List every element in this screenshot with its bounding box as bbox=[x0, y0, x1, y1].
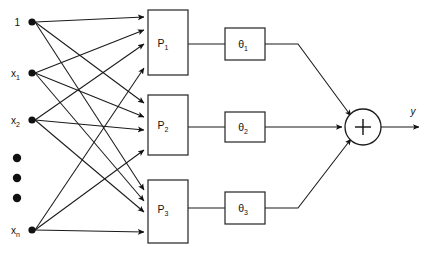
input-node-bias[interactable]: 1 bbox=[14, 17, 35, 28]
perceptron-p2[interactable]: P2 bbox=[148, 95, 188, 155]
wires-theta-to-sum bbox=[265, 44, 351, 208]
perceptron-p1[interactable]: P1 bbox=[148, 10, 188, 75]
edge-bias-to-p3 bbox=[35, 22, 144, 190]
input-node-x2[interactable]: x2 bbox=[11, 115, 36, 128]
perceptron-p1-box[interactable] bbox=[148, 10, 188, 75]
input-node-x2-label: x2 bbox=[11, 115, 20, 128]
weight-theta3[interactable]: θ3 bbox=[225, 192, 265, 224]
edge-x1-to-p1 bbox=[35, 30, 144, 73]
wire-theta1-to-sum bbox=[265, 44, 351, 116]
input-node-xn-dot[interactable] bbox=[28, 226, 35, 233]
edge-bias-to-p2 bbox=[35, 22, 144, 103]
weight-theta1[interactable]: θ1 bbox=[225, 28, 265, 60]
input-node-x2-dot[interactable] bbox=[28, 116, 35, 123]
diagram-canvas: P1 P2 P3 θ1 θ2 θ3 1 x1 bbox=[0, 0, 432, 258]
edge-x1-to-p2 bbox=[35, 73, 144, 117]
ellipsis-dot-2 bbox=[13, 174, 21, 182]
input-node-bias-dot[interactable] bbox=[28, 18, 35, 25]
input-node-xn[interactable]: xn bbox=[11, 225, 36, 238]
edge-xn-to-p3 bbox=[35, 230, 144, 232]
wires-p-to-theta bbox=[188, 44, 225, 208]
summation-node[interactable] bbox=[345, 109, 381, 145]
input-node-x1-label: x1 bbox=[11, 68, 20, 81]
ellipsis-dot-1 bbox=[13, 154, 21, 162]
weight-theta2-box[interactable] bbox=[225, 112, 265, 142]
edge-x2-to-p2 bbox=[35, 120, 144, 130]
weight-theta1-box[interactable] bbox=[225, 28, 265, 60]
perceptron-p3[interactable]: P3 bbox=[148, 180, 188, 243]
edge-xn-to-p2 bbox=[35, 150, 144, 230]
input-node-x1-dot[interactable] bbox=[28, 69, 35, 76]
vertical-ellipsis-icon bbox=[13, 154, 21, 202]
edge-bias-to-p1 bbox=[35, 17, 144, 22]
weight-theta2[interactable]: θ2 bbox=[225, 112, 265, 142]
edges-to-p3 bbox=[35, 22, 144, 232]
wire-theta3-to-sum bbox=[265, 139, 351, 208]
ellipsis-dot-3 bbox=[13, 194, 21, 202]
output-label-y: y bbox=[410, 106, 417, 117]
input-node-xn-label: xn bbox=[11, 225, 20, 238]
perceptron-p2-box[interactable] bbox=[148, 95, 188, 155]
input-node-bias-label: 1 bbox=[14, 17, 20, 28]
edge-x2-to-p3 bbox=[35, 120, 144, 212]
perceptron-network-diagram: P1 P2 P3 θ1 θ2 θ3 1 x1 bbox=[0, 0, 432, 258]
weight-theta3-box[interactable] bbox=[225, 192, 265, 224]
input-node-x1[interactable]: x1 bbox=[11, 68, 36, 81]
edge-x2-to-p1 bbox=[35, 44, 144, 120]
